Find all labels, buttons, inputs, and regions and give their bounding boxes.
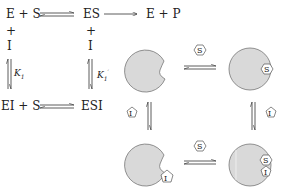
enzyme-with-inhibitor bbox=[125, 144, 165, 186]
inhibitor-label-left: I bbox=[129, 108, 132, 120]
inhibitor-label-right: I bbox=[268, 108, 271, 120]
cartoon-arrow-top bbox=[184, 66, 216, 69]
enzyme-free bbox=[125, 50, 165, 92]
equilibrium-arrow-left bbox=[8, 59, 11, 89]
equilibrium-arrow-top bbox=[40, 13, 74, 16]
cartoon-arrow-bottom bbox=[184, 161, 216, 164]
substrate-label-bound: S bbox=[264, 64, 269, 76]
cartoon-arrow-left bbox=[148, 102, 151, 130]
cartoon-arrow-right bbox=[252, 102, 255, 130]
substrate-label-top: S bbox=[197, 45, 202, 57]
equilibrium-arrow-mid bbox=[89, 59, 92, 89]
equilibrium-arrow-bottom bbox=[40, 105, 74, 108]
diagram-graphics bbox=[0, 0, 287, 193]
substrate-label-esi: S bbox=[263, 155, 268, 167]
inhibitor-label-bound-left: I bbox=[164, 173, 167, 185]
substrate-label-bottom: S bbox=[197, 141, 202, 153]
inhibitor-label-esi: I bbox=[264, 167, 267, 179]
